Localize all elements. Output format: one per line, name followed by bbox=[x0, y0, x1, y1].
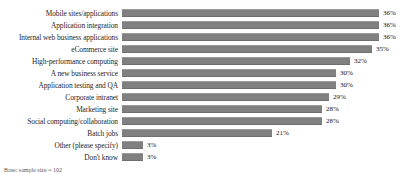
horizontal-bar-chart: Mobile sites/applications36%Application … bbox=[0, 0, 408, 173]
bar bbox=[122, 153, 143, 161]
bar-row: Social computing/collaboration28% bbox=[0, 115, 408, 127]
bar-value-label: 28% bbox=[322, 117, 339, 125]
bar-value-label: 21% bbox=[272, 129, 289, 137]
bar-track: 35% bbox=[122, 43, 408, 55]
bar-track: 36% bbox=[122, 7, 408, 19]
bar-track: 36% bbox=[122, 31, 408, 43]
bar-row: Internal web business applications36% bbox=[0, 31, 408, 43]
category-label: High-performance computing bbox=[0, 57, 122, 66]
bar-value-label: 3% bbox=[143, 153, 156, 161]
plot-area: Mobile sites/applications36%Application … bbox=[0, 7, 408, 163]
bar bbox=[122, 57, 350, 65]
bar bbox=[122, 21, 379, 29]
bar-track: 36% bbox=[122, 19, 408, 31]
bar-track: 21% bbox=[122, 127, 408, 139]
category-label: Application integration bbox=[0, 21, 122, 30]
category-label: Mobile sites/applications bbox=[0, 9, 122, 18]
bar-value-label: 36% bbox=[379, 9, 396, 17]
bar bbox=[122, 81, 336, 89]
bar-track: 29% bbox=[122, 91, 408, 103]
bar-track: 30% bbox=[122, 79, 408, 91]
bar-row: Batch jobs21% bbox=[0, 127, 408, 139]
bar-track: 3% bbox=[122, 139, 408, 151]
bar-track: 3% bbox=[122, 151, 408, 163]
bar-value-label: 35% bbox=[372, 45, 389, 53]
bar bbox=[122, 93, 329, 101]
category-label: A new business service bbox=[0, 69, 122, 78]
bar-value-label: 29% bbox=[329, 93, 346, 101]
bar-row: Marketing site28% bbox=[0, 103, 408, 115]
category-label: Don't know bbox=[0, 153, 122, 162]
bar-value-label: 3% bbox=[143, 141, 156, 149]
bar-track: 32% bbox=[122, 55, 408, 67]
bar-value-label: 36% bbox=[379, 33, 396, 41]
bar bbox=[122, 105, 322, 113]
bar-row: Application integration36% bbox=[0, 19, 408, 31]
bar bbox=[122, 141, 143, 149]
bar-value-label: 36% bbox=[379, 21, 396, 29]
category-label: Batch jobs bbox=[0, 129, 122, 138]
bar-row: Other (please specify)3% bbox=[0, 139, 408, 151]
bar-value-label: 30% bbox=[336, 69, 353, 77]
bar-value-label: 32% bbox=[350, 57, 367, 65]
category-label: Corporate intranet bbox=[0, 93, 122, 102]
bar bbox=[122, 33, 379, 41]
bar-row: Don't know3% bbox=[0, 151, 408, 163]
bar-value-label: 28% bbox=[322, 105, 339, 113]
bar-row: A new business service30% bbox=[0, 67, 408, 79]
bar-row: High-performance computing32% bbox=[0, 55, 408, 67]
category-label: Marketing site bbox=[0, 105, 122, 114]
bar bbox=[122, 9, 379, 17]
category-label: Internal web business applications bbox=[0, 33, 122, 42]
category-label: Social computing/collaboration bbox=[0, 117, 122, 126]
bar bbox=[122, 45, 372, 53]
bar-track: 28% bbox=[122, 103, 408, 115]
category-label: Application testing and QA bbox=[0, 81, 122, 90]
bar bbox=[122, 69, 336, 77]
bar-row: Application testing and QA30% bbox=[0, 79, 408, 91]
category-label: eCommerce site bbox=[0, 45, 122, 54]
bar-track: 28% bbox=[122, 115, 408, 127]
bar bbox=[122, 117, 322, 125]
chart-footnote: Base: sample size = 102 bbox=[4, 167, 62, 173]
bar bbox=[122, 129, 272, 137]
bar-value-label: 30% bbox=[336, 81, 353, 89]
bar-row: Corporate intranet29% bbox=[0, 91, 408, 103]
bar-row: Mobile sites/applications36% bbox=[0, 7, 408, 19]
bar-row: eCommerce site35% bbox=[0, 43, 408, 55]
bar-track: 30% bbox=[122, 67, 408, 79]
category-label: Other (please specify) bbox=[0, 141, 122, 150]
